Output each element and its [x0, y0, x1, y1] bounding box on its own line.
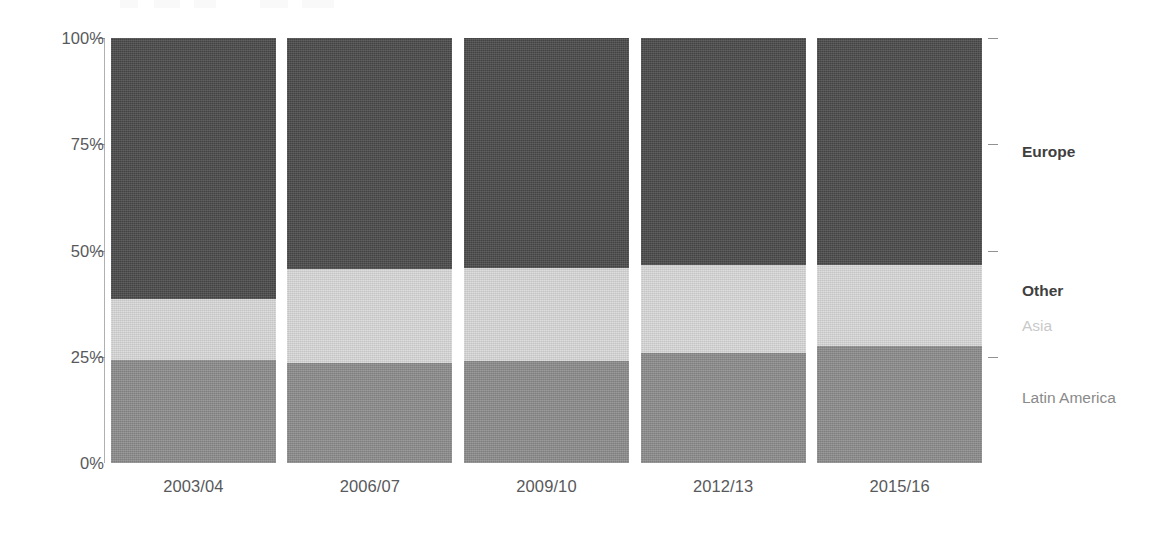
bar-column[interactable] — [464, 38, 629, 463]
legend-label-europe[interactable]: Europe — [1022, 144, 1075, 160]
bar-segment[interactable] — [817, 265, 982, 346]
bar-segment[interactable] — [111, 299, 276, 360]
y-tick-label: 25% — [32, 349, 104, 366]
legend-label-other[interactable]: Other — [1022, 283, 1063, 299]
bar-segment[interactable] — [287, 38, 452, 269]
plot-area — [105, 38, 988, 463]
legend-label-asia[interactable]: Asia — [1022, 318, 1052, 334]
legend-label-latin-america[interactable]: Latin America — [1022, 390, 1116, 406]
y-tick-label: 0% — [32, 455, 104, 472]
x-tick-label: 2009/10 — [458, 478, 635, 495]
bar-segment[interactable] — [817, 38, 982, 265]
y-tick-mark-right — [988, 357, 998, 358]
y-tick-label: 75% — [32, 136, 104, 153]
bar-segment[interactable] — [111, 360, 276, 463]
bar-column[interactable] — [287, 38, 452, 463]
y-tick-label: 100% — [32, 30, 104, 47]
bar-column[interactable] — [641, 38, 806, 463]
bar-column[interactable] — [817, 38, 982, 463]
cropped-title-residue — [120, 0, 420, 8]
bar-segment[interactable] — [817, 346, 982, 463]
bar-segment[interactable] — [111, 38, 276, 299]
x-tick-label: 2003/04 — [105, 478, 282, 495]
y-tick-mark-right — [988, 38, 998, 39]
y-tick-label: 50% — [32, 242, 104, 259]
x-tick-label: 2012/13 — [635, 478, 812, 495]
bar-segment[interactable] — [641, 353, 806, 463]
bar-segment[interactable] — [641, 265, 806, 353]
x-tick-label: 2015/16 — [811, 478, 988, 495]
bar-segment[interactable] — [287, 269, 452, 363]
x-tick-label: 2006/07 — [282, 478, 459, 495]
bar-segment[interactable] — [287, 363, 452, 463]
bar-segment[interactable] — [464, 268, 629, 361]
y-tick-mark-right — [988, 251, 998, 252]
bar-column[interactable] — [111, 38, 276, 463]
y-tick-mark-right — [988, 144, 998, 145]
bar-segment[interactable] — [464, 361, 629, 463]
stacked-bar-chart: 100%75%50%25%0% 2003/042006/072009/10201… — [0, 0, 1168, 534]
bar-segment[interactable] — [641, 38, 806, 265]
bar-segment[interactable] — [464, 38, 629, 268]
